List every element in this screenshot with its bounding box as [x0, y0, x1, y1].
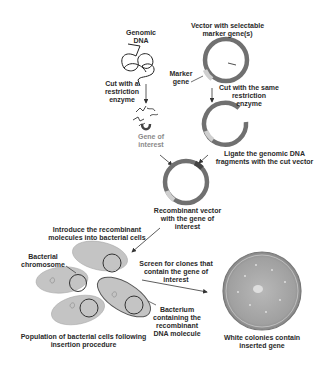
white-colony-icon [253, 285, 263, 293]
gene-of-interest-fragment-icon [142, 124, 150, 129]
arrow-vector-to-recombinant [199, 155, 208, 163]
bacterium-4-icon [49, 291, 108, 330]
label-marker-gene: Marker gene [166, 70, 196, 86]
label-introduce: Introduce the recombinant molecules into… [42, 226, 152, 242]
label-ligate: Ligate the genomic DNA fragments with th… [212, 150, 317, 166]
arrow-gene-to-recombinant [160, 155, 172, 165]
label-gene-of-interest: Gene of interest [133, 133, 169, 149]
cut-vector-marker-segment-icon [206, 131, 213, 140]
label-white-colonies: White colonies contain inserted gene [220, 334, 304, 350]
cut-site-marker-icon [228, 63, 236, 65]
label-cut-restriction: Cut with a restriction enzyme [100, 80, 144, 104]
label-vector: Vector with selectable marker gene(s) [180, 22, 275, 38]
label-recombinant-vector: Recombinant vector with the gene of inte… [150, 207, 225, 231]
petri-dish-icon [223, 252, 301, 330]
label-cut-same: Cut with the same restriction enzyme [214, 84, 284, 108]
inserted-gene-segment-icon [195, 163, 202, 168]
label-bacterial-chromosome: Bacterial chromosome [18, 253, 68, 269]
dna-fragments-icon [133, 106, 158, 126]
label-screen: Screen for clones that contain the gene … [134, 260, 218, 284]
label-bacterium-containing: Bacterium containing the recombinant DNA… [148, 306, 206, 338]
vector-plasmid-icon [205, 39, 247, 81]
label-genomic-dna: Genomic DNA [121, 29, 161, 45]
label-population: Population of bacterial cells following … [16, 333, 151, 349]
